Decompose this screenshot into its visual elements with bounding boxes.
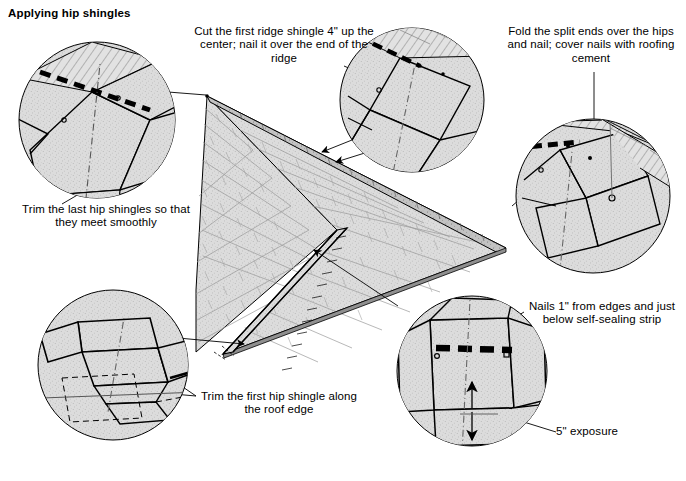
callout-nail-placement: Nails 1" from edges and just below self-…: [526, 300, 678, 327]
detail-inset-right: [516, 118, 674, 273]
detail-inset-top-left: [16, 42, 200, 214]
callout-trim-last-hip: Trim the last hip shingles so that they …: [14, 203, 198, 230]
callout-ridge-shingle: Cut the first ridge shingle 4" up the ce…: [194, 25, 374, 65]
illustration-canvas: Applying hip shingles Cut the first ridg…: [0, 0, 686, 481]
detail-inset-bottom-left: [38, 290, 200, 440]
callout-exposure: 5" exposure: [556, 425, 646, 438]
callout-trim-first-hip: Trim the first hip shingle along the roo…: [196, 390, 362, 417]
callout-fold-split-ends: Fold the split ends over the hips and na…: [503, 25, 679, 65]
figure-title: Applying hip shingles: [8, 7, 131, 19]
